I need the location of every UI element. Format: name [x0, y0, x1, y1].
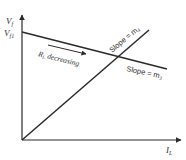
intercept-label: Vf1 — [4, 28, 14, 39]
y-axis-label: Vf — [6, 16, 15, 27]
x-axis-label: IL — [165, 145, 173, 156]
load-line-diagram: Vf Vf1 IL RL decreasing Slope = m4 Slope… — [0, 0, 186, 160]
rl-decreasing-label: RL decreasing — [36, 49, 80, 69]
rising-line — [22, 30, 149, 140]
